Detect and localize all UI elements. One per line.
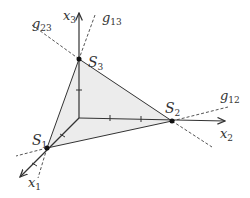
label-g13: g13 — [102, 10, 122, 27]
line-g13 — [79, 15, 95, 59]
line-g23-lower — [172, 121, 212, 147]
vertex-s2 — [170, 119, 175, 124]
label-x2: x2 — [220, 126, 233, 143]
label-g23: g23 — [32, 16, 52, 33]
vertex-s3 — [77, 57, 82, 62]
label-g12: g12 — [220, 88, 240, 105]
simplex-diagram: x3 x2 x1 S3 S2 S1 g13 g23 g12 — [0, 0, 250, 198]
label-s1: S1 — [32, 132, 47, 150]
axis-x1 — [20, 118, 79, 177]
label-s3: S3 — [88, 54, 104, 72]
label-x3: x3 — [63, 8, 76, 25]
label-x1: x1 — [28, 175, 41, 192]
line-g13-lower — [38, 148, 47, 178]
label-s2: S2 — [165, 100, 180, 118]
line-g12 — [172, 107, 228, 121]
